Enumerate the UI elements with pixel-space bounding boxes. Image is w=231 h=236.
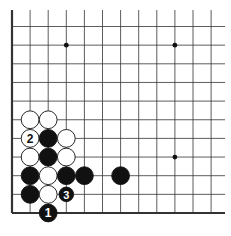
black-stone [21,167,39,185]
white-stone [57,130,75,148]
white-stone [39,167,57,185]
black-stone [112,167,130,185]
star-point-icon [173,155,178,160]
white-stone [39,185,57,203]
black-stone [57,167,75,185]
black-stone [21,185,39,203]
white-stone [21,111,39,129]
move-number: 2 [27,132,34,146]
star-point-icon [173,43,178,48]
stones: 231 [21,111,129,222]
white-stone [39,111,57,129]
star-point-icon [64,43,69,48]
black-stone [76,167,94,185]
black-stone [39,130,57,148]
move-number: 3 [63,189,69,201]
black-stone-3: 3 [59,187,74,202]
white-stone-2: 2 [21,130,39,148]
black-stone [39,148,57,166]
white-stone [21,148,39,166]
white-stone [57,148,75,166]
go-board: 231 [0,0,231,236]
black-stone-1: 1 [39,204,57,222]
move-number: 1 [45,206,52,220]
